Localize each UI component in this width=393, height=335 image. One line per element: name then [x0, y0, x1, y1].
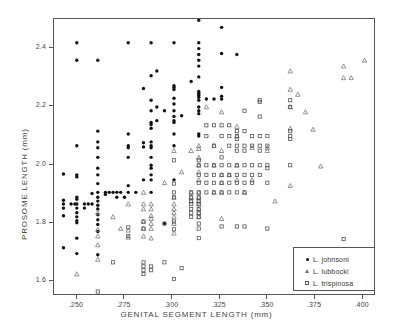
legend-label: L. trispinosa	[313, 280, 353, 287]
x-tick-mark	[314, 295, 315, 299]
y-tick-label: 1.6	[24, 276, 46, 283]
x-tick-label: .375	[299, 301, 329, 308]
x-tick-mark	[219, 295, 220, 299]
y-tick-mark	[49, 164, 53, 165]
y-tick-label: 2.4	[24, 43, 46, 50]
legend-label: L. lubbocki	[313, 268, 349, 275]
y-tick-label: 2.2	[24, 101, 46, 108]
x-tick-label: .400	[347, 301, 377, 308]
legend-item-lubbocki: L. lubbocki	[301, 265, 374, 277]
x-tick-mark	[171, 295, 172, 299]
y-tick-mark	[49, 280, 53, 281]
x-tick-label: .275	[108, 301, 138, 308]
legend-label: L. johnsoni	[313, 256, 349, 263]
open-square-icon	[301, 281, 313, 284]
x-tick-mark	[123, 295, 124, 299]
filled-circle-icon	[301, 258, 313, 261]
x-tick-mark	[76, 295, 77, 299]
legend-box: L. johnsoni L. lubbocki L. trispinosa	[293, 247, 375, 291]
x-tick-label: .300	[156, 301, 186, 308]
legend-item-johnsoni: L. johnsoni	[301, 253, 374, 265]
x-tick-label: .250	[61, 301, 91, 308]
x-tick-mark	[362, 295, 363, 299]
x-tick-mark	[266, 295, 267, 299]
x-axis-label: GENITAL SEGMENT LENGTH (mm)	[0, 310, 393, 319]
x-tick-label: .325	[204, 301, 234, 308]
x-tick-label: .350	[251, 301, 281, 308]
y-tick-mark	[49, 47, 53, 48]
legend-item-trispinosa: L. trispinosa	[301, 277, 374, 289]
scatter-plot-figure: .250.275.300.325.350.375.400 1.61.82.02.…	[0, 0, 393, 335]
y-axis-label: PROSOME LENGTH (mm)	[20, 128, 29, 240]
y-tick-mark	[49, 222, 53, 223]
triangle-icon	[301, 269, 313, 273]
y-tick-mark	[49, 105, 53, 106]
